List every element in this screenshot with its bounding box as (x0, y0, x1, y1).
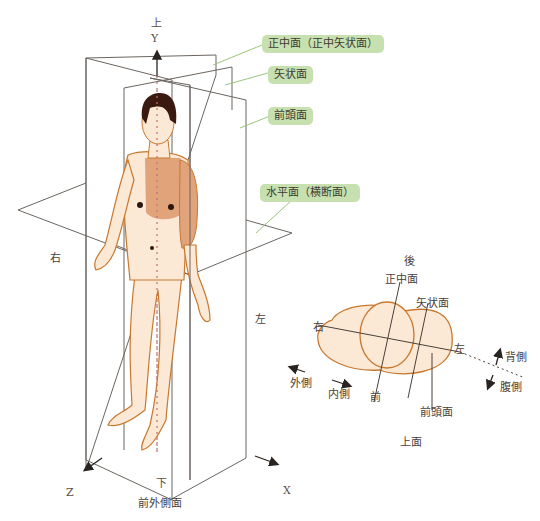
medial-label: 内側 (328, 389, 350, 400)
ventral-label: 腹側 (500, 382, 522, 393)
right-side-label: 右 (50, 253, 61, 264)
top-right-label: 右 (313, 322, 324, 333)
x-axis-arrow (255, 456, 277, 464)
medial-arrow (332, 380, 350, 386)
ventral-arrow (488, 375, 493, 388)
top-left-label: 左 (454, 344, 465, 355)
lateral-label: 外側 (290, 378, 312, 389)
sagittal-plane-tag: 矢状面 (268, 66, 313, 84)
coronal-plane-tag: 前頭面 (268, 107, 313, 125)
z-axis-label: Z (66, 487, 74, 498)
median-plane-tag: 正中面（正中矢状面） (262, 35, 384, 53)
lateral-arrow (290, 367, 305, 372)
dorsal-label: 背側 (505, 352, 527, 363)
top-front-label: 前 (370, 392, 381, 403)
top-median-label: 正中面 (385, 274, 418, 285)
down-label: 下 (156, 478, 167, 489)
top-back-label: 後 (404, 256, 415, 267)
horizontal-plane-tag: 水平面（横断面） (260, 184, 360, 202)
x-axis-label: X (283, 485, 291, 496)
up-label: 上 (151, 18, 162, 29)
top-coronal-label: 前頭面 (420, 407, 453, 418)
anatomical-planes-diagram: 上 Y Z X 下 前外側面 右 左 正中面（正中矢状面） 矢状面 前頭面 水平… (0, 0, 540, 521)
y-axis-label: Y (151, 33, 158, 44)
top-view (290, 282, 525, 410)
dorsal-arrow (496, 350, 500, 365)
front-lateral-label: 前外側面 (138, 498, 182, 509)
left-side-label: 左 (255, 314, 266, 325)
top-view-title: 上面 (400, 437, 422, 448)
top-sagittal-label: 矢状面 (416, 298, 449, 309)
